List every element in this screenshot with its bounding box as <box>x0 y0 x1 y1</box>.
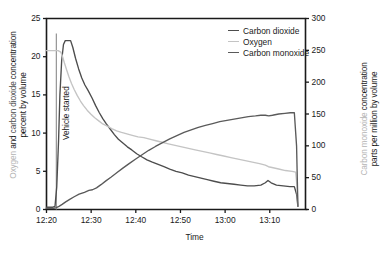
x-axis-tick-label: 13:10 <box>250 215 290 225</box>
series-line-carbon-monoxide <box>47 113 298 208</box>
legend-item[interactable]: Carbon monoxide <box>228 47 309 58</box>
y-axis-left-title-and: and <box>9 135 18 148</box>
chart-figure: Oxygen and carbon dioxide concentration … <box>0 0 389 256</box>
legend-item[interactable]: Oxygen <box>228 36 309 47</box>
legend-item[interactable]: Carbon dioxide <box>228 25 309 36</box>
y-axis-right-tick-label: 300 <box>312 13 338 23</box>
y-axis-right-tick-label: 200 <box>312 77 338 87</box>
legend-swatch-icon <box>228 52 239 53</box>
y-axis-right-title-units: parts per million by volume <box>370 24 380 214</box>
y-axis-right-tick-label: 100 <box>312 140 338 150</box>
x-axis-title: Time <box>0 233 389 243</box>
y-axis-left-tick-label: 25 <box>19 13 41 23</box>
series-line-carbon-dioxide <box>47 41 298 208</box>
legend-item-label: Carbon dioxide <box>243 26 299 36</box>
x-axis-tick-label: 12:30 <box>71 215 111 225</box>
y-axis-right-tick-label: 250 <box>312 45 338 55</box>
y-axis-right-tick-label: 50 <box>312 172 338 182</box>
y-axis-left-title-concentration: concentration <box>9 31 18 79</box>
chart-legend: Carbon dioxideOxygenCarbon monoxide <box>228 25 309 58</box>
y-axis-right-title-co: Carbon monoxide <box>360 112 369 175</box>
y-axis-left-tick-label: 20 <box>19 51 41 61</box>
x-axis-tick-label: 12:20 <box>27 215 67 225</box>
x-axis-tick-label: 13:00 <box>205 215 245 225</box>
y-axis-left-tick-label: 10 <box>19 128 41 138</box>
y-axis-left-title-co2: carbon dioxide <box>9 81 18 133</box>
legend-item-label: Oxygen <box>243 37 272 47</box>
y-axis-left-tick-label: 15 <box>19 89 41 99</box>
y-axis-right-tick-label: 150 <box>312 109 338 119</box>
series-line-oxygen <box>47 51 298 207</box>
y-axis-left-title-oxygen: Oxygen <box>9 151 18 179</box>
x-axis-tick-label: 12:50 <box>160 215 200 225</box>
y-axis-right-tick-label: 0 <box>312 204 338 214</box>
y-axis-right-title-concentration: concentration <box>360 62 369 110</box>
y-axis-right-title: Carbon monoxide concentration parts per … <box>360 24 379 214</box>
legend-swatch-icon <box>228 30 239 31</box>
y-axis-left-tick-label: 5 <box>19 166 41 176</box>
annotation-vehicle-started: Vehicle started <box>62 86 71 140</box>
legend-item-label: Carbon monoxide <box>243 48 309 58</box>
legend-swatch-icon <box>228 41 239 42</box>
x-axis-tick-label: 12:40 <box>116 215 156 225</box>
y-axis-left-tick-label: 0 <box>19 204 41 214</box>
